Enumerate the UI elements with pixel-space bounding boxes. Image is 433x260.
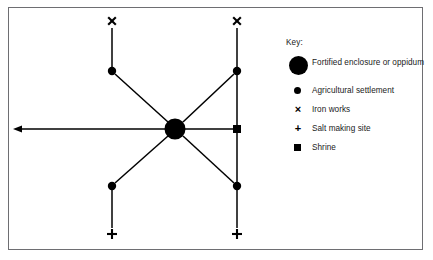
legend-item-salt-making-site: + Salt making site [286,123,426,135]
figure-root: Key: Fortified enclosure or oppidum Agri… [0,0,433,260]
link-topleft-settlement-to-oppidum [115,74,168,122]
link-bottomleft-settlement-to-oppidum [115,136,168,183]
node-salt-bottom-right [232,229,242,239]
node-settlement-bottom-right [233,182,241,190]
diagram-links [22,28,237,228]
legend-symbol-cell: × [286,104,312,116]
link-topright-settlement-to-oppidum [183,74,234,122]
node-salt-bottom-left [107,229,117,239]
legend-item-fortified-enclosure: Fortified enclosure or oppidum [286,56,426,76]
legend-item-label: Fortified enclosure or oppidum [312,56,424,68]
legend-item-label: Agricultural settlement [312,85,394,96]
legend-item-label: Shrine [312,142,336,153]
legend-symbol-cell [286,85,312,97]
legend-symbol-cell: + [286,123,312,135]
filled-square-icon [294,144,301,151]
legend-item-label: Salt making site [312,123,371,134]
legend-title: Key: [286,38,426,47]
node-ironworks-top-left [108,17,116,25]
node-settlement-top-right [233,67,241,75]
legend-item-agricultural-settlement: Agricultural settlement [286,85,426,97]
node-settlement-bottom-left [108,182,116,190]
link-bottomright-settlement-to-oppidum [183,136,234,183]
legend-panel: Key: Fortified enclosure or oppidum Agri… [286,38,426,161]
plus-icon: + [291,121,305,135]
node-shrine [233,125,241,133]
node-oppidum [165,119,186,140]
legend-symbol-cell [286,56,312,76]
legend-item-iron-works: × Iron works [286,104,426,116]
node-ironworks-top-right [233,17,241,25]
legend-item-shrine: Shrine [286,142,426,154]
large-filled-circle-icon [289,56,308,75]
legend-item-label: Iron works [312,104,350,115]
node-settlement-top-left [108,67,116,75]
diagram-nodes [107,17,242,239]
small-filled-circle-icon [294,87,301,94]
legend-symbol-cell [286,142,312,154]
cross-x-icon: × [291,102,305,116]
